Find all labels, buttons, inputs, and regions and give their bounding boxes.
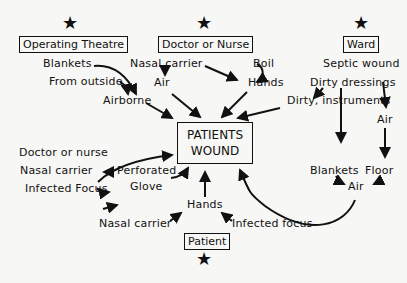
star-icon: ★ <box>196 250 212 268</box>
center-line2: WOUND <box>184 143 246 159</box>
node-infected-focus: Infected focus <box>232 217 313 230</box>
node-septic-wound: Septic wound <box>323 57 400 70</box>
node-glove: Glove <box>130 180 163 193</box>
node-nasal-carrier: Nasal carrier <box>99 217 172 230</box>
node-from-outside: From outside <box>49 75 123 88</box>
node-air-2: Air <box>348 180 364 193</box>
node-boil: Boil <box>253 57 274 70</box>
node-dirty-instruments: Dirty, instruments <box>287 94 391 107</box>
source-ward: Ward <box>343 36 379 53</box>
source-doctor-or-nurse: Doctor or Nurse <box>158 36 253 53</box>
node-infected-focus: Infected Focus <box>25 182 108 195</box>
node-hands: Hands <box>187 198 223 211</box>
node-hands: Hands <box>248 76 284 89</box>
center-line1: PATIENTS <box>184 127 246 143</box>
source-operating-theatre: Operating Theatre <box>19 36 128 53</box>
node-blankets: Blankets <box>310 164 359 177</box>
star-icon: ★ <box>62 14 78 32</box>
star-icon: ★ <box>196 14 212 32</box>
node-nasal-carrier: Nasal carrier <box>130 57 203 70</box>
source-patient: Patient <box>184 233 230 250</box>
patients-wound-box: PATIENTS WOUND <box>177 122 253 164</box>
star-icon: ★ <box>353 14 369 32</box>
node-airborne: Airborne <box>103 94 151 107</box>
node-perforated: Perforated <box>117 164 176 177</box>
node-blankets: Blankets <box>43 57 92 70</box>
node-nasal-carrier: Nasal carrier <box>20 164 93 177</box>
node-air: Air <box>377 113 393 126</box>
node-dirty-dressings: Dirty dressings <box>310 76 396 89</box>
node-floor: Floor <box>365 164 393 177</box>
node-doctor-or-nurse: Doctor or nurse <box>19 146 108 159</box>
node-air: Air <box>154 76 170 89</box>
